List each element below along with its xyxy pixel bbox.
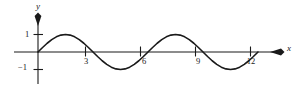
y-tick-label-1: 1 (25, 30, 29, 39)
plot-canvas (0, 0, 300, 91)
x-tick-label-9: 9 (193, 57, 203, 66)
x-tick-label-3: 3 (81, 57, 91, 66)
x-tick-label-12: 12 (244, 57, 258, 66)
x-axis-arrow-icon (270, 48, 285, 55)
y-tick-label-minus-1: −1 (18, 63, 27, 72)
y-axis-arrow-icon (35, 13, 42, 27)
x-tick-label-6: 6 (139, 57, 149, 66)
y-axis-label: y (36, 2, 40, 11)
x-axis-label: x (287, 44, 291, 53)
sine-wave-figure: y x 1 −1 3 6 9 12 (0, 0, 300, 91)
